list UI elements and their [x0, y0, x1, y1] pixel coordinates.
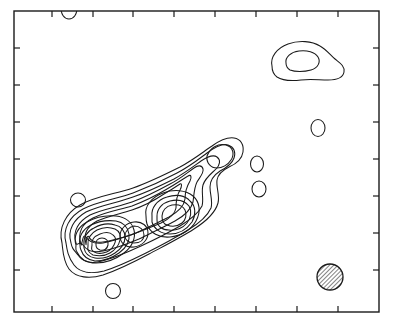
contour-map-figure	[0, 0, 400, 329]
beam-ellipse	[317, 264, 343, 290]
contour-plot-canvas	[0, 0, 400, 329]
